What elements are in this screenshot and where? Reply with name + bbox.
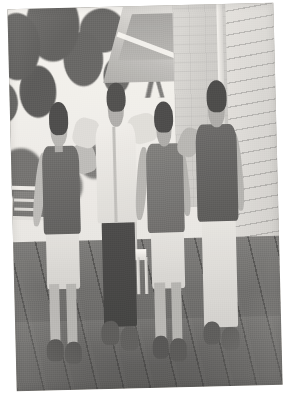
person-1-hair xyxy=(48,102,69,135)
person-3-left-shoe xyxy=(152,336,169,359)
person-2-trousers xyxy=(102,216,138,327)
photo-page xyxy=(0,0,290,404)
person-2-hair xyxy=(106,83,125,112)
person-3-shorts xyxy=(151,227,186,289)
person-3-right-leg xyxy=(171,283,183,342)
person-4-left-shoe xyxy=(203,321,222,345)
person-1-shirt xyxy=(41,146,80,235)
person-3-left-leg xyxy=(155,283,167,342)
group-photo xyxy=(7,3,282,391)
person-1-left-leg xyxy=(49,284,61,345)
person-4-right-shoe xyxy=(221,326,240,350)
person-3-right-shoe xyxy=(170,338,187,361)
person-1-shorts xyxy=(46,229,81,290)
person-2-left-shoe xyxy=(101,321,120,345)
person-4 xyxy=(187,76,261,372)
photo-image xyxy=(7,3,282,391)
person-3-hair xyxy=(154,102,174,133)
person-2-right-shoe xyxy=(120,326,139,350)
person-4-hair xyxy=(206,80,227,113)
person-1-right-leg xyxy=(66,284,78,345)
person-4-trousers xyxy=(201,215,238,328)
person-1-right-shoe xyxy=(65,341,83,363)
person-3-shirt xyxy=(146,143,185,233)
person-1-left-shoe xyxy=(46,339,64,361)
person-4-shirt xyxy=(195,123,239,221)
